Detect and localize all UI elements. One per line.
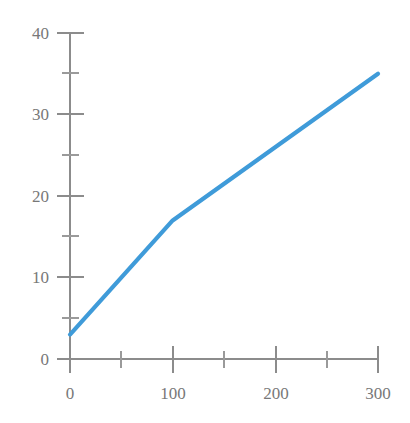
y-tick-label-10: 10 [32,268,49,287]
x-axis-tick-labels: 0 100 200 300 [66,384,391,403]
y-tick-label-0: 0 [41,350,50,369]
y-tick-label-40: 40 [32,24,49,43]
y-axis-tick-labels: 40 30 20 10 0 [32,24,49,369]
x-tick-label-200: 200 [263,384,289,403]
x-tick-label-100: 100 [160,384,186,403]
line-chart: 40 30 20 10 0 0 100 200 300 [0,0,410,423]
y-tick-label-20: 20 [32,187,49,206]
chart-container: 40 30 20 10 0 0 100 200 300 [0,0,410,423]
y-tick-label-30: 30 [32,105,49,124]
x-tick-label-0: 0 [66,384,75,403]
x-tick-label-300: 300 [365,384,391,403]
data-line-series-1 [70,74,378,335]
